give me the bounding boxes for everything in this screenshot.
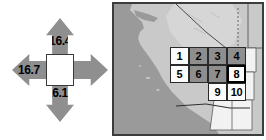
island-speck-3 xyxy=(139,65,141,67)
index-cell-9-label: 9 xyxy=(215,87,221,98)
index-cell-7-label: 7 xyxy=(215,69,221,80)
nav-arrow-down-label: 16.10 xyxy=(46,87,74,99)
index-cell-9[interactable]: 9 xyxy=(208,83,227,101)
nav-arrow-left-label: 16.7 xyxy=(18,64,40,76)
index-cell-2-label: 2 xyxy=(196,51,202,62)
nav-arrow-up-label: 16.4 xyxy=(49,35,71,47)
index-cell-3[interactable]: 3 xyxy=(208,47,227,65)
index-cell-5-label: 5 xyxy=(177,69,183,80)
nav-arrow-down[interactable]: 16.10 xyxy=(46,86,74,122)
nav-arrow-left[interactable]: 16.7 xyxy=(12,54,48,86)
page-navigation-compass: 16.4 16.7 16.10 xyxy=(12,18,108,122)
nav-compass-center xyxy=(46,54,74,86)
index-cell-8-selected[interactable]: 8 xyxy=(227,65,246,83)
nav-arrow-right[interactable] xyxy=(72,54,108,86)
index-cell-10[interactable]: 10 xyxy=(227,83,246,101)
index-cell-4[interactable]: 4 xyxy=(227,47,246,65)
index-cell-6-label: 6 xyxy=(196,69,202,80)
index-cell-2[interactable]: 2 xyxy=(189,47,208,65)
index-cell-1-label: 1 xyxy=(177,51,183,62)
index-cell-8-label: 8 xyxy=(234,69,240,80)
index-cell-4-label: 4 xyxy=(234,51,240,62)
index-cell-5[interactable]: 5 xyxy=(170,65,189,83)
index-cell-3-label: 3 xyxy=(215,51,221,62)
index-cell-10-label: 10 xyxy=(231,87,243,98)
inset-polygon-lower-right xyxy=(210,100,252,130)
regional-index-map[interactable]: 1 2 3 4 5 6 7 8 xyxy=(112,2,264,136)
island-speck-2 xyxy=(156,89,159,91)
index-cell-1[interactable]: 1 xyxy=(170,47,189,65)
index-cell-7[interactable]: 7 xyxy=(208,65,227,83)
nav-arrow-up[interactable]: 16.4 xyxy=(46,18,74,54)
island-speck-1 xyxy=(146,77,150,79)
map-index-page: 16.4 16.7 16.10 xyxy=(0,0,266,140)
index-cell-6[interactable]: 6 xyxy=(189,65,208,83)
